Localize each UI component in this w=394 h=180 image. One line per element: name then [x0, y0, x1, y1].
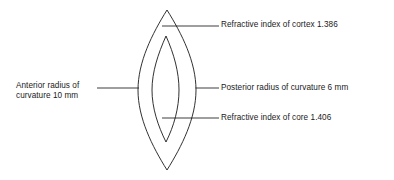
label-anterior-radius: Anterior radius of curvature 10 mm	[16, 81, 79, 101]
label-refractive-index-cortex-line1: Refractive index of cortex 1.386	[221, 20, 338, 30]
lens-diagram-figure: Anterior radius of curvature 10 mm Refra…	[0, 0, 394, 180]
label-anterior-radius-line2: curvature 10 mm	[16, 91, 79, 101]
label-refractive-index-cortex: Refractive index of cortex 1.386	[221, 20, 338, 30]
label-posterior-radius-line1: Posterior radius of curvature 6 mm	[221, 83, 348, 93]
label-refractive-index-core-line1: Refractive index of core 1.406	[221, 113, 331, 123]
label-refractive-index-core: Refractive index of core 1.406	[221, 113, 331, 123]
label-anterior-radius-line1: Anterior radius of	[16, 81, 79, 91]
label-posterior-radius: Posterior radius of curvature 6 mm	[221, 83, 348, 93]
core-outline	[152, 36, 179, 142]
cortex-outline	[138, 10, 196, 170]
